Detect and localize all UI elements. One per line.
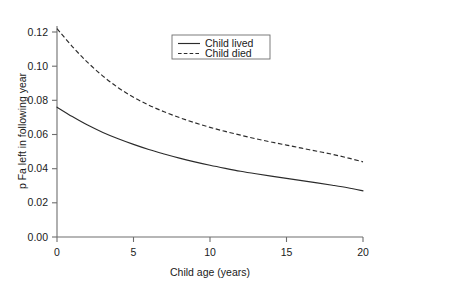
x-tick-label: 15 [281, 246, 293, 258]
line-chart: 0.00 0.02 0.04 0.06 0.08 0.10 0.12 0 5 1… [0, 0, 452, 290]
legend-label-child-died: Child died [205, 47, 252, 59]
y-tick-label: 0.02 [28, 196, 49, 208]
x-axis-title: Child age (years) [170, 266, 250, 278]
x-tick-label: 0 [54, 246, 60, 258]
y-axis-title: p Fa left in following year [16, 72, 28, 189]
x-tick-label: 20 [357, 246, 369, 258]
y-tick-label: 0.10 [28, 60, 49, 72]
y-tick-label: 0.04 [28, 162, 49, 174]
x-tick-label: 5 [131, 246, 137, 258]
y-tick-label: 0.06 [28, 128, 49, 140]
chart-figure: 0.00 0.02 0.04 0.06 0.08 0.10 0.12 0 5 1… [0, 0, 452, 290]
y-tick-label: 0.12 [28, 26, 49, 38]
chart-legend: Child lived Child died [172, 35, 270, 59]
y-tick-label: 0.08 [28, 94, 49, 106]
y-tick-label: 0.00 [28, 231, 49, 243]
x-tick-label: 10 [204, 246, 216, 258]
